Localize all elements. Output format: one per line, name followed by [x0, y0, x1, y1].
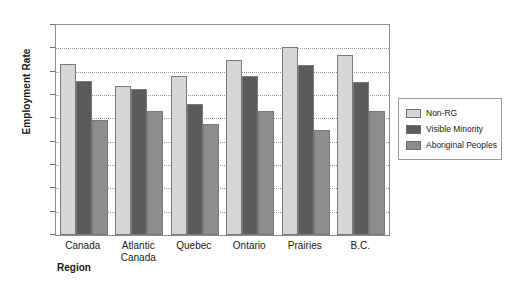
bar: [298, 65, 314, 235]
bar: [171, 76, 187, 235]
legend-item[interactable]: Non-RG: [406, 106, 495, 120]
bar: [92, 120, 108, 236]
bar: [369, 111, 385, 235]
bar: [353, 82, 369, 235]
legend-label: Visible Minority: [426, 124, 483, 134]
bar: [60, 64, 76, 236]
legend-swatch-icon: [406, 141, 421, 150]
bar: [226, 60, 242, 235]
chart-legend: Non-RGVisible MinorityAboriginal Peoples: [398, 98, 502, 160]
bar: [131, 89, 147, 235]
legend-item[interactable]: Visible Minority: [406, 122, 495, 136]
gridline: [56, 48, 389, 49]
legend-swatch-icon: [406, 125, 421, 134]
legend-label: Non-RG: [426, 108, 457, 118]
bar: [76, 81, 92, 235]
chart-figure: Employment Rate 0102030405060708090 Cana…: [0, 0, 510, 288]
bar: [115, 86, 131, 235]
plot-area: [55, 24, 390, 236]
x-axis-title: Region: [57, 262, 91, 273]
bar: [147, 111, 163, 235]
legend-label: Aboriginal Peoples: [426, 140, 497, 150]
bar: [258, 111, 274, 235]
bar: [203, 124, 219, 235]
bar: [187, 104, 203, 235]
legend-item[interactable]: Aboriginal Peoples: [406, 138, 495, 152]
bar: [282, 47, 298, 235]
x-axis-category-label: B.C.: [324, 240, 396, 252]
legend-swatch-icon: [406, 109, 421, 118]
bar: [242, 76, 258, 235]
plot-inner: [56, 25, 389, 235]
bar: [314, 130, 330, 235]
y-axis-title: Employment Rate: [21, 22, 32, 162]
bar: [337, 55, 353, 235]
